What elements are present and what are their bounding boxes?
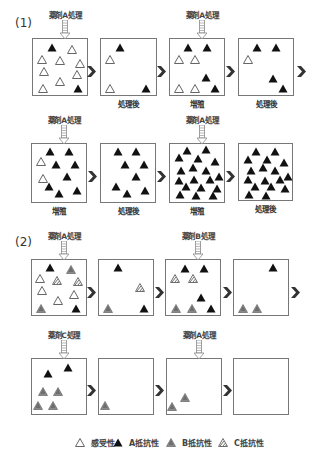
susceptible-triangle-icon <box>72 70 82 79</box>
susceptible-triangle-icon <box>55 77 65 86</box>
a-resistant-triangle-icon <box>208 191 218 200</box>
a-resistant-triangle-icon <box>115 43 125 52</box>
susceptible-triangle-icon <box>69 290 79 299</box>
a-resistant-triangle-icon <box>202 43 212 52</box>
treatment-label: 薬剤C処理 <box>48 329 81 340</box>
box-caption: 処理後 <box>255 203 276 214</box>
susceptible-triangle-icon <box>67 45 77 54</box>
a-resistant-triangle-icon <box>120 160 130 169</box>
treatment-label: 薬剤A処理 <box>48 114 81 125</box>
a-resistant-triangle-icon <box>131 172 141 181</box>
a-resistant-triangle-icon <box>243 155 253 164</box>
a-resistant-triangle-icon <box>122 189 132 198</box>
a-resistant-triangle-icon <box>210 157 220 166</box>
susceptible-triangle-icon <box>190 84 200 93</box>
a-resistant-triangle-icon <box>210 84 220 93</box>
c-resistant-triangle-icon <box>218 438 231 447</box>
box-caption: 処理後 <box>118 98 139 109</box>
a-resistant-triangle-icon <box>266 182 276 191</box>
legend-item: A抵抗性 <box>113 437 159 448</box>
chevron-right-icon <box>155 283 164 294</box>
b-resistant-triangle-icon <box>166 438 179 447</box>
section-label: (2) <box>15 235 32 249</box>
box-caption: 処理後 <box>256 98 277 109</box>
a-resistant-triangle-icon <box>45 147 55 156</box>
b-resistant-triangle-icon <box>33 401 43 410</box>
a-resistant-triangle-icon <box>175 190 185 199</box>
a-resistant-triangle-icon <box>188 163 198 172</box>
a-resistant-triangle-icon <box>246 166 256 175</box>
a-resistant-triangle-icon <box>140 186 150 195</box>
a-resistant-triangle-icon <box>201 145 211 154</box>
chevron-right-icon <box>87 62 96 73</box>
legend-item: C抵抗性 <box>218 437 264 448</box>
a-resistant-triangle-icon <box>62 172 72 181</box>
susceptible-triangle-icon <box>243 55 253 64</box>
a-resistant-triangle-icon <box>279 158 289 167</box>
a-resistant-triangle-icon <box>43 369 53 378</box>
treatment-label: 薬剤B処理 <box>182 230 215 241</box>
a-resistant-triangle-icon <box>183 43 193 52</box>
susceptible-triangle-icon <box>75 59 85 68</box>
a-resistant-triangle-icon <box>70 160 80 169</box>
population-box <box>233 358 289 415</box>
a-resistant-triangle-icon <box>280 184 290 193</box>
b-resistant-triangle-icon <box>103 304 113 313</box>
b-resistant-triangle-icon <box>238 304 248 313</box>
down-arrow-icon <box>197 20 207 38</box>
b-resistant-triangle-icon <box>100 401 110 410</box>
b-resistant-triangle-icon <box>171 304 181 313</box>
box-caption: 増殖 <box>190 98 204 109</box>
b-resistant-triangle-icon <box>53 387 63 396</box>
susceptible-triangle-icon <box>174 55 184 64</box>
chevron-right-icon <box>87 381 96 392</box>
c-resistant-triangle-icon <box>188 274 198 283</box>
chevron-right-icon <box>157 167 166 178</box>
a-resistant-triangle-icon <box>180 264 190 273</box>
a-resistant-triangle-icon <box>72 186 82 195</box>
a-resistant-triangle-icon <box>63 363 73 372</box>
chevron-right-icon <box>223 381 232 392</box>
b-resistant-triangle-icon <box>48 401 58 410</box>
a-resistant-triangle-icon <box>113 263 123 272</box>
susceptible-triangle-icon <box>38 84 48 93</box>
treatment-label: 薬剤A処理 <box>186 114 219 125</box>
legend-label: C抵抗性 <box>234 437 264 448</box>
section-label: (1) <box>15 16 32 30</box>
a-resistant-triangle-icon <box>271 43 281 52</box>
susceptible-triangle-icon <box>35 274 45 283</box>
treatment-label: 薬剤A処理 <box>186 9 219 20</box>
susceptible-triangle-icon <box>105 55 115 64</box>
a-resistant-triangle-icon <box>283 172 293 181</box>
c-resistant-triangle-icon <box>135 283 145 292</box>
down-arrow-icon <box>197 125 207 143</box>
b-resistant-triangle-icon <box>187 304 197 313</box>
box-caption: 増殖 <box>190 205 204 216</box>
a-resistant-triangle-icon <box>191 191 201 200</box>
a-resistant-triangle-icon <box>113 438 126 447</box>
b-resistant-triangle-icon <box>252 304 262 313</box>
down-arrow-icon <box>59 125 69 143</box>
c-resistant-triangle-icon <box>73 277 83 286</box>
a-resistant-triangle-icon <box>201 73 211 82</box>
chevron-right-icon <box>223 283 232 294</box>
susceptible-triangle-icon <box>75 438 88 447</box>
c-resistant-triangle-icon <box>170 274 180 283</box>
treatment-label: 薬剤A処理 <box>183 329 216 340</box>
legend-item: B抵抗性 <box>166 437 212 448</box>
a-resistant-triangle-icon <box>252 43 262 52</box>
a-resistant-triangle-icon <box>139 304 149 313</box>
a-resistant-triangle-icon <box>111 182 121 191</box>
b-resistant-triangle-icon <box>180 393 190 402</box>
down-arrow-icon <box>60 20 70 38</box>
susceptible-triangle-icon <box>174 84 184 93</box>
chevron-right-icon <box>87 283 96 294</box>
a-resistant-triangle-icon <box>268 74 278 83</box>
a-resistant-triangle-icon <box>47 43 57 52</box>
c-resistant-triangle-icon <box>52 276 62 285</box>
susceptible-triangle-icon <box>105 84 115 93</box>
b-resistant-triangle-icon <box>36 304 46 313</box>
legend-label: 感受性 <box>91 437 115 448</box>
chevron-right-icon <box>226 62 235 73</box>
chevron-right-icon <box>226 167 235 178</box>
